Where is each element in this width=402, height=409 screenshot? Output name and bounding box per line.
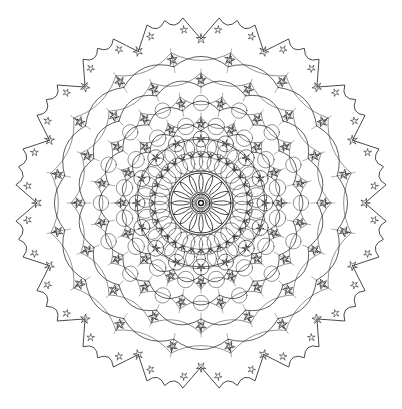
- pattern-lines: [16, 18, 386, 388]
- mandala-pattern: [0, 0, 402, 409]
- mandala-canvas: [0, 0, 402, 409]
